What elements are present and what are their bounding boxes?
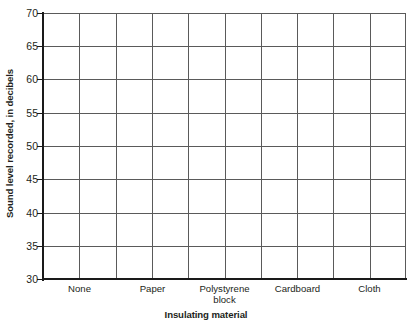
sound-level-bar-chart: Sound level recorded, in decibels 70 65 … [0,0,412,327]
y-tick-label-40: 40 [12,208,38,218]
plot-frame-top [43,13,406,14]
gridline-v-7 [297,13,298,279]
y-tick-label-60: 60 [12,74,38,84]
gridline-v-2 [116,13,117,279]
gridline-v-4 [188,13,189,279]
x-tick-label-paper: Paper [116,283,189,294]
x-axis-line [42,278,407,280]
y-tick-label-35: 35 [12,241,38,251]
x-axis-title: Insulating material [0,309,412,320]
plot-area [43,13,406,279]
gridline-v-3 [152,13,153,279]
y-tick-label-50: 50 [12,141,38,151]
gridline-v-8 [333,13,334,279]
y-axis-line [42,12,44,281]
x-tick-label-polystyrene-block: Polystyrene block [188,283,261,305]
y-tick-label-70: 70 [12,8,38,18]
plot-frame-right [405,13,406,279]
y-tick-label-30: 30 [12,274,38,284]
y-tick-label-45: 45 [12,174,38,184]
gridline-v-6 [261,13,262,279]
y-tick-label-55: 55 [12,108,38,118]
y-tick-label-65: 65 [12,41,38,51]
gridline-v-9 [370,13,371,279]
x-tick-label-cloth: Cloth [333,283,406,294]
gridline-v-5 [225,13,226,279]
gridline-v-1 [79,13,80,279]
x-tick-label-cardboard: Cardboard [261,283,334,294]
x-tick-label-none: None [43,283,116,294]
